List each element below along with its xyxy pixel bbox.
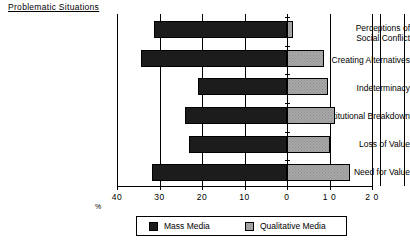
x-axis-tick-label: 2 0: [357, 192, 387, 202]
legend-label-mass-media: Mass Media: [164, 221, 210, 231]
plot-area: [117, 14, 372, 186]
zero-axis-tick: [285, 74, 290, 75]
bar-qualitative-media: [287, 50, 324, 67]
bar-qualitative-media: [287, 164, 350, 181]
gridline: [372, 14, 373, 186]
frame-rule-inner: [380, 14, 381, 186]
bar-mass-media: [152, 164, 287, 181]
zero-axis-tick: [285, 46, 290, 47]
x-axis-title: %: [0, 203, 410, 210]
legend-item-mass-media: Mass Media: [149, 221, 210, 231]
mass-media-swatch-icon: [149, 222, 158, 231]
x-axis-tick-label: 10: [230, 192, 260, 202]
bar-qualitative-media: [287, 21, 293, 38]
gridline: [245, 14, 246, 186]
x-axis-tick: [202, 186, 203, 190]
bar-mass-media: [185, 107, 287, 124]
x-axis-tick-label: 40: [102, 192, 132, 202]
legend-label-qualitative-media: Qualitative Media: [260, 221, 326, 231]
legend: Mass Media Qualitative Media: [136, 216, 347, 236]
gridline: [160, 14, 161, 186]
x-axis-title-text: %: [95, 203, 101, 210]
zero-axis-tick: [285, 17, 290, 18]
x-axis-tick: [287, 186, 288, 190]
x-axis-tick: [160, 186, 161, 190]
frame-rule-outer: [404, 14, 405, 186]
x-axis-end-cap: [117, 182, 118, 186]
x-axis-tick: [330, 186, 331, 190]
bar-chart: Problematic Situations Perceptions of So…: [0, 0, 410, 251]
category-axis-title: Problematic Situations: [8, 2, 99, 12]
x-axis-end-cap: [372, 182, 373, 186]
bar-mass-media: [198, 78, 287, 95]
x-axis-tick-label: 30: [145, 192, 175, 202]
bar-mass-media: [189, 136, 287, 153]
x-axis-tick-label: 20: [187, 192, 217, 202]
gridline: [330, 14, 331, 186]
x-axis-tick: [372, 186, 373, 190]
bar-mass-media: [141, 50, 287, 67]
bar-qualitative-media: [287, 107, 335, 124]
x-axis-tick: [245, 186, 246, 190]
qualitative-media-swatch-icon: [245, 222, 254, 231]
legend-item-qualitative-media: Qualitative Media: [245, 221, 326, 231]
x-axis-tick-label: 1 0: [315, 192, 345, 202]
zero-axis-tick: [285, 160, 290, 161]
gridline: [117, 14, 118, 186]
x-axis-tick-label: 0: [272, 192, 302, 202]
zero-axis-tick: [285, 103, 290, 104]
x-axis-tick: [117, 186, 118, 190]
gridline: [202, 14, 203, 186]
bar-qualitative-media: [287, 136, 330, 153]
zero-axis-tick: [285, 132, 290, 133]
bar-qualitative-media: [287, 78, 328, 95]
bar-mass-media: [154, 21, 287, 38]
